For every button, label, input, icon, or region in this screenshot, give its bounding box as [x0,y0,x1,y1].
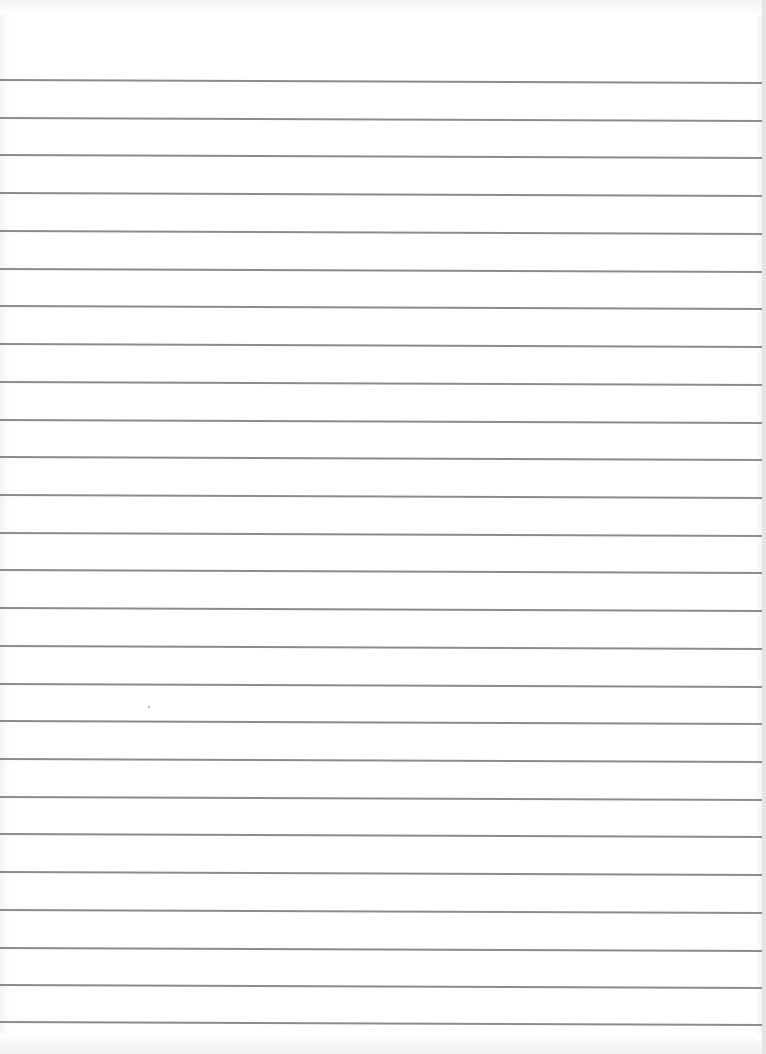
ruled-line [0,154,764,159]
ruled-line [0,456,764,461]
ruled-line [0,117,764,122]
ruled-line [0,1021,764,1026]
ruled-line [0,871,764,876]
ruled-paper-sheet [0,0,766,1054]
ruled-line [0,381,764,386]
ruled-line [0,569,764,574]
ruled-line [0,305,764,310]
ruled-line [0,947,764,952]
ruled-line [0,607,764,612]
ruled-line [0,833,764,838]
ruled-line [0,645,764,650]
ruled-line [0,419,764,424]
paper-speck [148,706,150,708]
ruled-line [0,796,764,801]
ruled-line [0,758,764,763]
ruled-line [0,230,764,235]
ruled-line [0,79,764,84]
ruled-line [0,343,764,348]
ruled-line [0,683,764,688]
ruled-line [0,909,764,914]
ruled-lines [0,0,766,1054]
ruled-line [0,268,764,273]
ruled-line [0,720,764,725]
ruled-line [0,192,764,197]
ruled-line [0,494,764,499]
ruled-line [0,532,764,537]
bottom-edge-shading [0,1034,766,1054]
right-paper-edge [762,0,766,1054]
ruled-line [0,984,764,989]
